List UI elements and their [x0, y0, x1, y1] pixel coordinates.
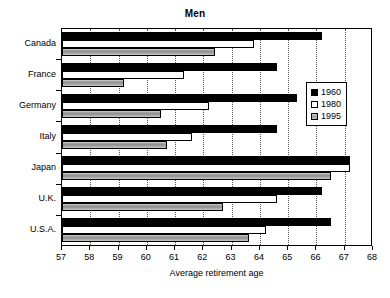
- bar-uk-1995: [62, 203, 223, 211]
- x-tick-label-62: 62: [190, 252, 214, 262]
- legend-swatch-1960-icon: [311, 89, 318, 96]
- bar-usa-1995: [62, 234, 249, 242]
- category-tick: [56, 153, 61, 154]
- bar-france-1960: [62, 63, 277, 71]
- x-tick-label-57: 57: [49, 252, 73, 262]
- category-tick: [56, 59, 61, 60]
- bar-japan-1995: [62, 172, 331, 180]
- category-label-france: France: [28, 69, 56, 79]
- x-tick-label-63: 63: [219, 252, 243, 262]
- legend-label-1995: 1995: [321, 111, 341, 121]
- chart-legend: 1960 1980 1995: [306, 82, 347, 126]
- legend-item-1995: 1995: [311, 110, 341, 122]
- legend-swatch-1980-icon: [311, 101, 318, 108]
- legend-item-1960: 1960: [311, 86, 341, 98]
- bar-germany-1960: [62, 94, 297, 102]
- bar-group: [62, 122, 371, 153]
- x-tick-label-58: 58: [77, 252, 101, 262]
- x-tick: [259, 246, 260, 250]
- bar-italy-1980: [62, 133, 192, 141]
- x-tick-label-67: 67: [332, 252, 356, 262]
- x-tick: [202, 246, 203, 250]
- bar-group: [62, 29, 371, 60]
- bar-canada-1980: [62, 40, 254, 48]
- x-tick-label-66: 66: [303, 252, 327, 262]
- x-tick: [315, 246, 316, 250]
- x-tick-label-60: 60: [134, 252, 158, 262]
- chart-title: Men: [0, 8, 390, 19]
- x-tick: [118, 246, 119, 250]
- category-label-germany: Germany: [19, 100, 56, 110]
- bar-group: [62, 216, 371, 247]
- category-label-canada: Canada: [24, 38, 56, 48]
- bar-france-1995: [62, 79, 124, 87]
- category-label-italy: Italy: [39, 131, 56, 141]
- bar-group: [62, 154, 371, 185]
- bar-canada-1960: [62, 32, 322, 40]
- category-label-uk: U.K.: [38, 193, 56, 203]
- legend-label-1960: 1960: [321, 87, 341, 97]
- x-tick: [372, 246, 373, 250]
- category-tick: [56, 90, 61, 91]
- category-label-japan: Japan: [31, 162, 56, 172]
- retirement-age-chart: Men CanadaFranceGermanyItalyJapanU.K.U.S…: [0, 0, 390, 298]
- bar-group: [62, 185, 371, 216]
- legend-swatch-1995-icon: [311, 113, 318, 120]
- x-tick-label-68: 68: [360, 252, 384, 262]
- bar-canada-1995: [62, 48, 215, 56]
- x-tick: [61, 246, 62, 250]
- bar-germany-1995: [62, 110, 161, 118]
- x-tick: [344, 246, 345, 250]
- bar-usa-1960: [62, 218, 331, 226]
- legend-item-1980: 1980: [311, 98, 341, 110]
- bar-japan-1980: [62, 164, 350, 172]
- bar-uk-1980: [62, 195, 277, 203]
- plot-area: [61, 28, 372, 246]
- legend-label-1980: 1980: [321, 99, 341, 109]
- category-label-usa: U.S.A.: [30, 224, 56, 234]
- category-tick: [56, 215, 61, 216]
- x-tick-label-59: 59: [106, 252, 130, 262]
- x-tick: [146, 246, 147, 250]
- bar-france-1980: [62, 71, 184, 79]
- bar-japan-1960: [62, 156, 350, 164]
- bar-italy-1960: [62, 125, 277, 133]
- bars-layer: [62, 29, 371, 245]
- category-tick: [56, 184, 61, 185]
- bar-italy-1995: [62, 141, 167, 149]
- x-tick-label-64: 64: [247, 252, 271, 262]
- category-tick: [56, 121, 61, 122]
- x-tick-label-61: 61: [162, 252, 186, 262]
- bar-usa-1980: [62, 226, 266, 234]
- x-axis-title: Average retirement age: [61, 268, 372, 278]
- bar-uk-1960: [62, 187, 322, 195]
- x-tick: [231, 246, 232, 250]
- x-tick-label-65: 65: [275, 252, 299, 262]
- x-tick: [287, 246, 288, 250]
- x-tick: [174, 246, 175, 250]
- x-tick: [89, 246, 90, 250]
- bar-germany-1980: [62, 102, 209, 110]
